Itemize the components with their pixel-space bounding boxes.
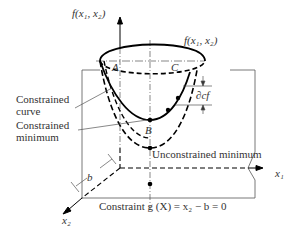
- b-dimension: [71, 154, 116, 192]
- constraint-label: Constraint g (X) = x₂ − b = 0: [99, 200, 227, 213]
- x1-label: x₁: [274, 167, 284, 179]
- x1-axis: [248, 166, 263, 171]
- surface-label: f(x₁, x₂): [184, 34, 218, 47]
- optimization-diagram: f(x₁, x₂) f(x₁, x₂) A C B ∂cf b Constrai…: [0, 0, 300, 237]
- point-projection: [148, 182, 153, 187]
- constrained-curve-label-2: curve: [16, 105, 41, 117]
- point-b: [148, 118, 153, 123]
- points: [148, 96, 181, 187]
- unconstrained-minimum-label: Unconstrained minimum: [152, 148, 262, 160]
- point-curve-2: [166, 108, 170, 112]
- f-axis-label: f(x₁, x₂): [72, 7, 106, 20]
- point-b-label: B: [145, 124, 152, 136]
- b-label: b: [87, 171, 93, 183]
- point-c-label: C: [171, 61, 179, 73]
- f-axis: [118, 17, 123, 48]
- leader-lines: [75, 88, 147, 130]
- surface-front-dashed: [104, 61, 150, 138]
- point-curve-1: [176, 96, 180, 100]
- constrained-curve-label-1: Constrained: [16, 93, 70, 105]
- constrained-minimum-label-1: Constrained: [16, 119, 70, 131]
- x2-label: x₂: [61, 214, 71, 226]
- partial-cf-label: ∂cf: [196, 89, 211, 101]
- x2-axis: [63, 198, 82, 214]
- bowl-top-ellipse: [100, 44, 205, 61]
- point-a-label: A: [111, 61, 119, 73]
- constraint-plane: [82, 70, 255, 198]
- constrained-minimum-label-2: minimum: [16, 131, 59, 143]
